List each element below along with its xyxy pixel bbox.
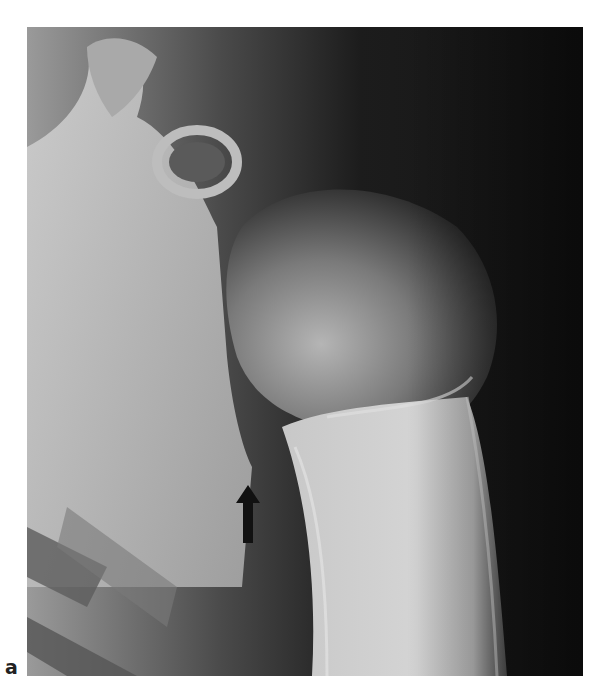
xray-graphic [27,27,583,676]
panel-label: a [5,657,18,677]
xray-image [27,27,583,676]
